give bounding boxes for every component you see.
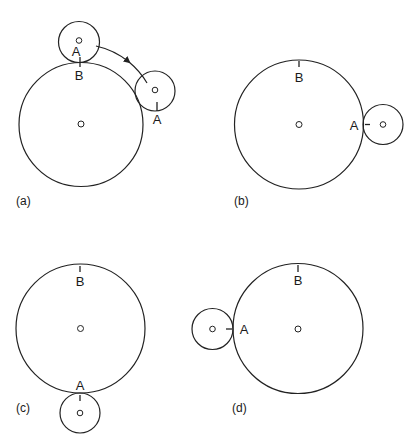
center-hole-icon: [210, 326, 216, 332]
label-a: A: [350, 118, 359, 133]
small-circle-moved: [135, 71, 175, 111]
label-b: B: [294, 273, 303, 288]
center-hole-icon: [296, 122, 302, 128]
center-hole-icon: [76, 38, 82, 44]
label-a-moved: A: [153, 112, 162, 127]
caption-b: (b): [234, 194, 249, 208]
label-b: B: [75, 68, 84, 83]
panel-a: B A A (a): [16, 22, 175, 209]
center-hole-icon: [77, 410, 83, 416]
center-hole-icon: [380, 122, 386, 128]
label-a: A: [76, 378, 85, 393]
panel-d: B A (d): [192, 264, 363, 416]
center-hole-icon: [78, 121, 84, 127]
caption-c: (c): [16, 401, 30, 415]
center-hole-icon: [152, 87, 158, 93]
panel-c: B A (c): [16, 264, 145, 433]
rotation-arrow-icon: [96, 46, 129, 62]
label-a-start: A: [72, 44, 81, 59]
caption-d: (d): [232, 401, 247, 415]
label-a: A: [240, 322, 249, 337]
center-hole-icon: [295, 326, 301, 332]
rolling-circles-diagram: B A A (a) B A (b) B A (c): [0, 0, 413, 443]
caption-a: (a): [16, 194, 31, 208]
panel-b: B A (b): [234, 60, 403, 208]
center-hole-icon: [78, 326, 84, 332]
label-b: B: [76, 274, 85, 289]
label-b: B: [295, 70, 304, 85]
